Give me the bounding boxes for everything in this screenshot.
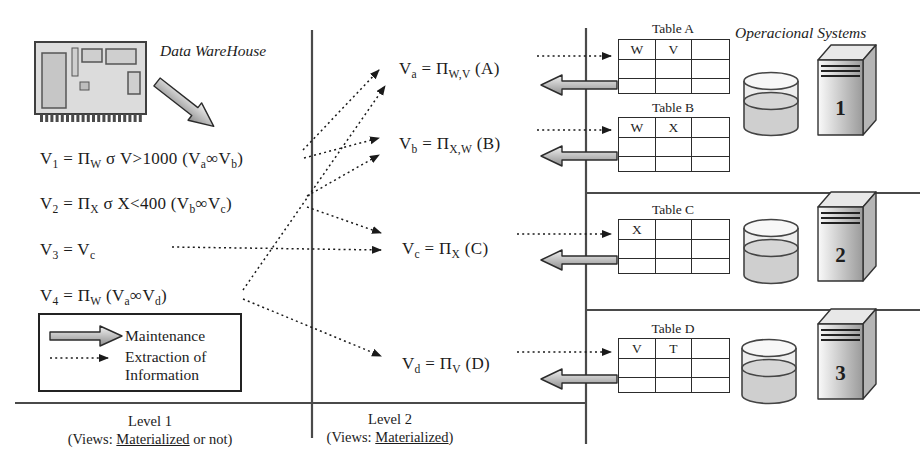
table-cell: [692, 79, 729, 93]
table-cell: [619, 259, 656, 273]
legend-extraction-label-line2: Information: [125, 366, 199, 384]
diagram-canvas: Data WareHouse Operacional Systems V1 = …: [0, 0, 922, 474]
table-cell: [619, 60, 656, 79]
table-b-header-cell: [692, 118, 729, 138]
legend-extraction-label-line1: Extraction of: [125, 348, 206, 366]
table-cell: [692, 378, 729, 392]
view-formula-v4: V4 = ΠW (Va∞Vd): [40, 286, 167, 306]
table-cell: [656, 138, 693, 157]
database-icon-1: [744, 73, 798, 136]
table-a-title: Table A: [618, 21, 728, 37]
operational-systems-title: Operacional Systems: [735, 24, 866, 42]
level2-sublabel-suffix: ): [449, 429, 454, 445]
table-d-header-cell: V: [619, 339, 656, 359]
level1-sublabel: (Views: Materialized or not): [10, 431, 290, 448]
table-a-grid: W V: [618, 39, 730, 94]
table-cell: [692, 359, 729, 378]
level1-sublabel-underlined: Materialized: [116, 431, 189, 447]
level2-sublabel-prefix: (Views:: [327, 429, 376, 445]
table-b-title: Table B: [618, 100, 728, 116]
table-cell: [619, 359, 656, 378]
table-a-header-cell: W: [619, 40, 656, 60]
table-cell: [692, 259, 729, 273]
view-formula-vc: Vc = ΠX (C): [402, 239, 488, 259]
warehouse-arrow-icon: [150, 73, 220, 135]
table-b-header-cell: W: [619, 118, 656, 138]
table-b-grid: W X: [618, 117, 730, 172]
level2-sublabel-underlined: Materialized: [375, 429, 448, 445]
view-formula-vb: Vb = ΠX,W (B): [399, 134, 500, 154]
table-cell: [656, 157, 693, 171]
maintenance-arrow-tablec: [541, 250, 617, 270]
table-cell: [619, 79, 656, 93]
view-formula-vd: Vd = ΠV (D): [402, 354, 490, 374]
extraction-line-v2-vb: [307, 155, 379, 196]
table-c-header-cell: [656, 220, 693, 240]
view-formula-v1: V1 = ΠW σ V>1000 (Va∞Vb): [40, 149, 243, 169]
table-d-header-cell: [692, 339, 729, 359]
server-number-1: 1: [818, 96, 863, 121]
maintenance-arrow-tablea: [541, 75, 617, 95]
table-cell: [656, 240, 693, 259]
table-cell: [656, 259, 693, 273]
table-a-header-cell: V: [656, 40, 693, 60]
table-c-header-cell: [692, 220, 729, 240]
table-c-title: Table C: [618, 202, 728, 218]
maintenance-arrow-tabled: [541, 369, 617, 389]
database-icon-2: [744, 220, 798, 284]
computer-icon: [35, 42, 146, 118]
table-d-title: Table D: [618, 321, 728, 337]
table-cell: [656, 79, 693, 93]
table-cell: [619, 240, 656, 259]
table-d-grid: V T: [618, 338, 730, 393]
level2-label: Level 2: [300, 411, 480, 428]
level1-sublabel-suffix: or not): [190, 431, 233, 447]
table-d-header-cell: T: [656, 339, 693, 359]
extraction-line-v2-vc: [307, 207, 381, 233]
extraction-line-v3-vc: [172, 247, 381, 250]
table-cell: [656, 359, 693, 378]
table-cell: [619, 378, 656, 392]
database-icons: [742, 73, 798, 404]
view-formula-va: Va = ΠW,V (A): [399, 59, 500, 79]
server-number-2: 2: [818, 243, 863, 268]
table-cell: [619, 157, 656, 171]
server-number-3: 3: [818, 361, 863, 386]
maintenance-arrow-tableb: [541, 146, 617, 166]
view-formula-v2: V2 = ΠX σ X<400 (Vb∞Vc): [40, 194, 232, 214]
table-cell: [692, 138, 729, 157]
table-c-grid: X: [618, 219, 730, 274]
data-warehouse-title: Data WareHouse: [160, 42, 266, 60]
server-icon-1: [818, 45, 876, 135]
legend-maintenance-label: Maintenance: [125, 327, 205, 345]
table-cell: [619, 138, 656, 157]
table-cell: [692, 60, 729, 79]
table-cell: [692, 240, 729, 259]
view-formula-v3: V3 = Vc: [40, 240, 95, 260]
level2-sublabel: (Views: Materialized): [300, 429, 480, 446]
table-a-header-cell: [692, 40, 729, 60]
extraction-line-v4-va: [243, 86, 385, 290]
table-c-header-cell: X: [619, 220, 656, 240]
table-b-header-cell: X: [656, 118, 693, 138]
level1-sublabel-prefix: (Views:: [68, 431, 117, 447]
table-cell: [692, 157, 729, 171]
table-cell: [656, 378, 693, 392]
level1-label: Level 1: [40, 413, 260, 430]
table-cell: [656, 60, 693, 79]
database-icon-3: [742, 340, 796, 404]
